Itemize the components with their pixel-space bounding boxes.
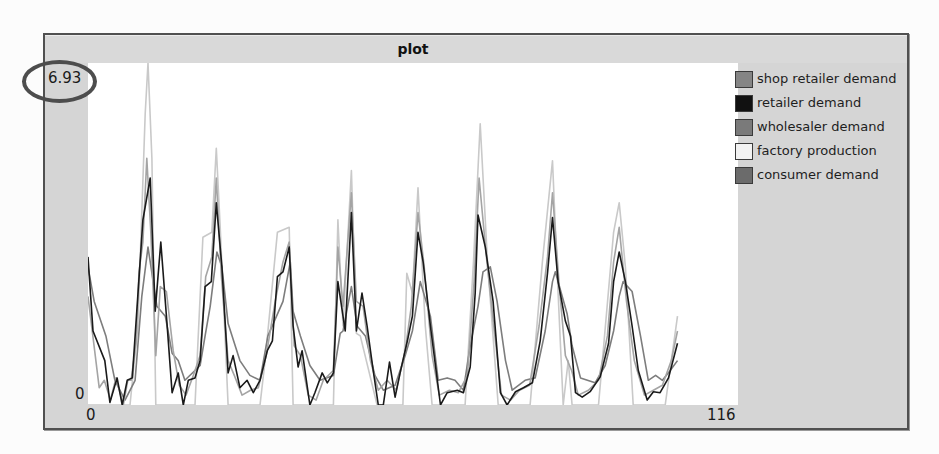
series-line-factory-production <box>88 63 678 405</box>
plot-title: plot <box>88 40 738 58</box>
legend-swatch <box>735 167 753 184</box>
plot-area <box>88 63 738 405</box>
plot-widget: plot 6.93 0 0 116 shop retailer demand r… <box>43 33 909 430</box>
legend-swatch <box>735 71 753 88</box>
legend-swatch <box>735 95 753 112</box>
highlight-ellipse <box>22 60 97 103</box>
legend-item-consumer-demand: consumer demand <box>735 163 897 187</box>
legend-label: consumer demand <box>757 167 879 183</box>
x-axis-min-label: 0 <box>86 407 96 424</box>
y-axis-min-label: 0 <box>75 386 85 403</box>
series-line-shop-retailer-demand <box>88 158 678 405</box>
legend-item-retailer-demand: retailer demand <box>735 91 897 115</box>
legend-label: factory production <box>757 143 877 159</box>
legend-swatch <box>735 119 753 136</box>
legend-item-wholesaler-demand: wholesaler demand <box>735 115 897 139</box>
legend-label: retailer demand <box>757 95 861 111</box>
legend-label: shop retailer demand <box>757 71 897 87</box>
plot-legend: shop retailer demand retailer demand who… <box>735 67 897 187</box>
legend-label: wholesaler demand <box>757 119 885 135</box>
legend-item-shop-retailer-demand: shop retailer demand <box>735 67 897 91</box>
x-axis-max-label: 116 <box>707 407 736 424</box>
legend-swatch <box>735 143 753 160</box>
plot-title-bar: plot <box>45 35 907 63</box>
plot-lines <box>88 63 738 405</box>
legend-item-factory-production: factory production <box>735 139 897 163</box>
